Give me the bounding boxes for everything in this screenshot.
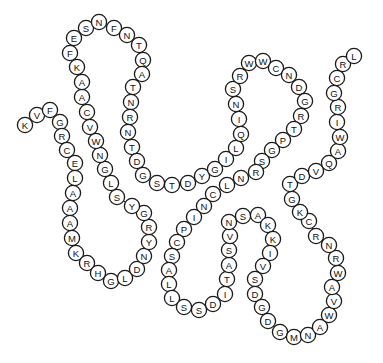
residue-letter: S: [181, 302, 187, 313]
residue-bead: L: [219, 177, 234, 192]
residue-letter: K: [297, 207, 304, 218]
residue-letter: M: [68, 233, 76, 244]
residue-bead: S: [247, 271, 262, 286]
residue-bead: W: [88, 133, 103, 148]
residue-bead: L: [161, 276, 176, 291]
residue-bead: A: [62, 215, 77, 230]
residue-bead: K: [69, 59, 84, 74]
residue-letter: S: [169, 251, 175, 262]
residue-letter: N: [128, 97, 135, 108]
residue-letter: K: [270, 234, 277, 245]
residue-bead: N: [123, 94, 138, 109]
residue-bead: Q: [135, 52, 150, 67]
residue-bead: S: [176, 299, 191, 314]
residue-letter: S: [154, 178, 160, 189]
residue-letter: K: [74, 62, 81, 73]
residue-letter: V: [227, 231, 234, 242]
residue-letter: L: [72, 173, 77, 184]
residue-letter: G: [288, 194, 295, 205]
residue-letter: V: [34, 110, 41, 121]
residue-bead: D: [260, 313, 275, 328]
residue-bead: D: [129, 153, 144, 168]
residue-letter: F: [47, 105, 53, 116]
residue-bead: G: [52, 114, 67, 129]
residue-bead: L: [67, 170, 82, 185]
residue-letter: R: [146, 222, 153, 233]
residue-bead: T: [125, 79, 140, 94]
residue-letter: K: [73, 248, 80, 259]
residue-letter: I: [336, 117, 339, 128]
residue-letter: G: [139, 170, 146, 181]
residue-bead: V: [326, 293, 341, 308]
residue-letter: Q: [237, 129, 244, 140]
residue-letter: G: [268, 145, 275, 156]
residue-bead: K: [265, 231, 280, 246]
residue-letter: R: [340, 59, 347, 70]
residue-letter: D: [252, 289, 259, 300]
residue-letter: N: [96, 17, 103, 28]
residue-letter: V: [331, 296, 338, 307]
residue-bead: C: [329, 70, 344, 85]
residue-letter: S: [196, 305, 202, 316]
residue-bead: T: [164, 177, 179, 192]
residue-bead: N: [321, 237, 336, 252]
residue-letter: K: [22, 120, 29, 131]
residue-letter: A: [255, 210, 262, 221]
residue-letter: A: [79, 92, 86, 103]
residue-letter: D: [210, 299, 217, 310]
residue-letter: N: [238, 173, 245, 184]
residue-letter: C: [306, 216, 313, 227]
residue-letter: Q: [325, 158, 332, 169]
residue-letter: R: [313, 231, 320, 242]
residue-bead: S: [191, 302, 206, 317]
residue-bead: T: [219, 271, 234, 286]
residue-letter: D: [265, 316, 272, 327]
residue-bead: A: [221, 257, 236, 272]
residue-letter: S: [240, 211, 246, 222]
residue-letter: C: [273, 63, 280, 74]
residue-bead: G: [103, 273, 118, 288]
residue-bead: G: [135, 167, 150, 182]
residue-bead: A: [74, 89, 89, 104]
residue-letter: F: [67, 48, 73, 59]
residue-letter: F: [111, 23, 117, 34]
residue-letter: D: [134, 156, 141, 167]
residue-letter: P: [181, 224, 187, 235]
residue-letter: R: [253, 167, 260, 178]
residue-bead: N: [228, 96, 243, 111]
residue-letter: M: [290, 332, 298, 343]
residue-letter: I: [269, 248, 272, 259]
residue-letter: A: [70, 188, 77, 199]
residue-bead: C: [169, 234, 184, 249]
residue-letter: T: [136, 40, 142, 51]
residue-letter: K: [265, 220, 272, 231]
residue-bead: W: [241, 55, 256, 70]
residue-letter: W: [259, 56, 268, 67]
residue-letter: L: [166, 279, 171, 290]
residue-letter: R: [333, 253, 340, 264]
protein-sequence-diagram: KVFGRCELAAAMKRHGLDNYRGYSLGNWVCAAKFESNFNT…: [0, 0, 383, 363]
residue-bead: A: [74, 74, 89, 89]
residue-bead: I: [231, 111, 246, 126]
residue-letter: N: [97, 150, 104, 161]
residue-bead: M: [286, 329, 301, 344]
residue-bead: R: [122, 109, 137, 124]
residue-bead: A: [134, 66, 149, 81]
residue-letter: A: [139, 69, 146, 80]
residue-letter: G: [330, 88, 337, 99]
residue-letter: P: [280, 135, 286, 146]
residue-letter: N: [286, 70, 293, 81]
residue-bead: G: [326, 85, 341, 100]
residue-letter: S: [252, 274, 258, 285]
residue-letter: T: [287, 179, 293, 190]
residue-letter: S: [114, 192, 120, 203]
residue-bead: N: [91, 14, 106, 29]
residue-bead: R: [308, 228, 323, 243]
residue-bead: A: [330, 143, 345, 158]
residue-letter: G: [258, 302, 265, 313]
residue-letter: V: [260, 261, 267, 272]
residue-letter: V: [87, 122, 94, 133]
residue-bead: Y: [124, 198, 139, 213]
residue-bead: N: [120, 124, 135, 139]
residue-bead: A: [62, 200, 77, 215]
